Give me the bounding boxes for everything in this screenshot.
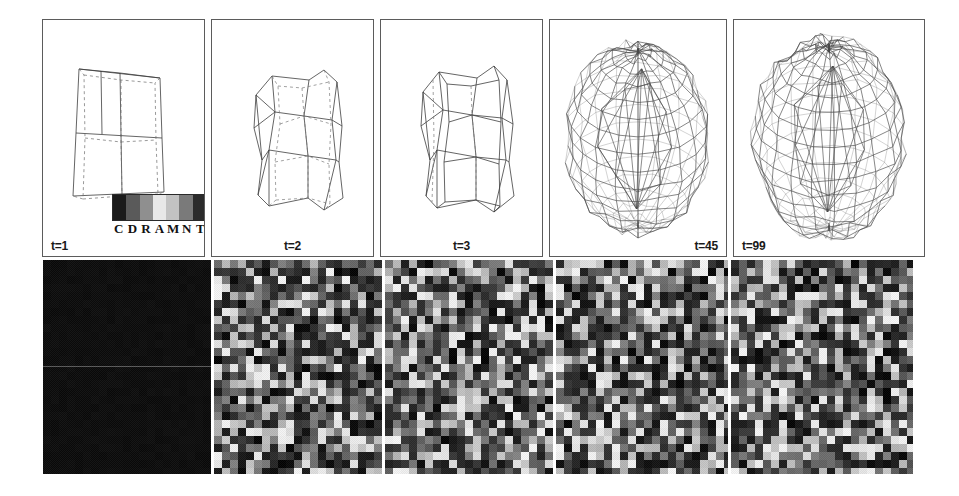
color-key-label-a: A xyxy=(153,222,167,236)
mesh-row: C D R A M N T t=1 xyxy=(42,19,925,257)
color-key-labels: C D R A M N T xyxy=(112,222,205,236)
color-key-label-r: R xyxy=(139,222,153,236)
mesh-panel-t2[interactable]: t=2 xyxy=(211,19,374,257)
raster-panel-t1[interactable] xyxy=(43,260,211,474)
color-swatch-n xyxy=(179,195,192,220)
mesh-panel-t1[interactable]: C D R A M N T t=1 xyxy=(42,19,205,257)
color-swatch-a xyxy=(153,195,166,220)
wireframe-mesh-t2 xyxy=(212,20,373,256)
mesh-panel-t99[interactable]: t=99 xyxy=(733,19,925,257)
raster-panel-t2[interactable] xyxy=(214,260,382,474)
color-swatch-d xyxy=(126,195,139,220)
time-label-t3: t=3 xyxy=(453,240,470,252)
raster-canvas-t99 xyxy=(731,260,913,474)
mesh-panel-t3[interactable]: t=3 xyxy=(380,19,543,257)
raster-canvas-t45 xyxy=(556,260,728,474)
raster-canvas-t2 xyxy=(214,260,382,474)
time-label-t1: t=1 xyxy=(51,240,68,252)
raster-panel-t3[interactable] xyxy=(385,260,553,474)
color-key-label-n: N xyxy=(180,222,194,236)
color-key-bands xyxy=(112,194,205,221)
time-label-t99: t=99 xyxy=(742,240,766,252)
mesh-panel-t45[interactable]: t=45 xyxy=(549,19,727,257)
color-key-label-d: D xyxy=(126,222,140,236)
color-swatch-t xyxy=(193,195,205,220)
wireframe-mesh-t99 xyxy=(734,20,924,256)
figure-root: C D R A M N T t=1 xyxy=(0,0,959,496)
color-swatch-r xyxy=(140,195,153,220)
color-swatch-m xyxy=(166,195,179,220)
time-label-t45: t=45 xyxy=(694,240,718,252)
color-swatch-c xyxy=(113,195,126,220)
raster-panel-t99[interactable] xyxy=(731,260,913,474)
wireframe-mesh-t3 xyxy=(381,20,542,256)
color-key-label-m: M xyxy=(166,222,180,236)
color-key-label-c: C xyxy=(112,222,126,236)
raster-row xyxy=(43,260,913,474)
raster-canvas-t3 xyxy=(385,260,553,474)
color-key-label-t: T xyxy=(193,222,205,236)
raster-panel-t45[interactable] xyxy=(556,260,728,474)
time-label-t2: t=2 xyxy=(284,240,301,252)
raster-canvas-t1 xyxy=(43,260,211,474)
wireframe-mesh-t45 xyxy=(550,20,726,256)
color-key: C D R A M N T xyxy=(112,194,205,236)
